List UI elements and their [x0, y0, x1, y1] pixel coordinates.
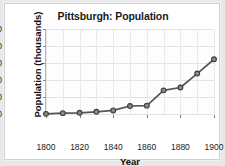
x-tick-label-1900: 1900 [194, 142, 225, 152]
x-tick-mark-1880 [180, 115, 181, 118]
y-tick-label-300: 300 [0, 58, 2, 68]
data-point-1840 [111, 108, 116, 113]
chart-figure: Pittsburgh: Population 0100200300400500 … [0, 0, 225, 166]
y-tick-label-400: 400 [0, 41, 2, 51]
data-point-1870 [161, 88, 166, 93]
data-point-1830 [94, 109, 99, 114]
x-tick-mark-1900 [214, 115, 215, 118]
data-point-1900 [212, 57, 217, 62]
data-point-1890 [195, 71, 200, 76]
y-tick-label-500: 500 [0, 24, 2, 34]
data-point-1810 [60, 111, 65, 116]
data-point-1880 [178, 85, 183, 90]
y-tick-label-0: 0 [0, 109, 2, 119]
data-point-1800 [44, 111, 49, 116]
y-tick-label-200: 200 [0, 75, 2, 85]
chart-frame: Pittsburgh: Population 0100200300400500 … [4, 3, 220, 160]
x-axis-title: Year [46, 156, 214, 166]
gridline-y-0 [46, 114, 214, 115]
y-axis-title: Population (thousands) [32, 0, 43, 140]
x-tick-mark-1860 [147, 115, 148, 118]
data-point-1860 [144, 103, 149, 108]
population-line-series [46, 29, 214, 114]
y-tick-label-100: 100 [0, 92, 2, 102]
gridline-x-1900 [214, 29, 215, 114]
x-tick-mark-1840 [113, 115, 114, 118]
data-point-1820 [77, 110, 82, 115]
plot-area: 0100200300400500 18001820184018601880190… [45, 29, 214, 115]
series-data-markers [44, 57, 217, 116]
data-point-1850 [128, 104, 133, 109]
